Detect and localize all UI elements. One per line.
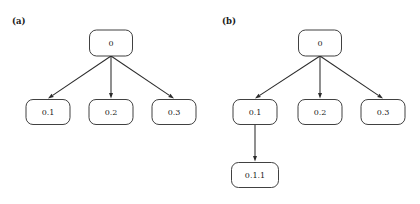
nodes-layer: 00.10.20.300.10.20.30.1.1 — [26, 30, 405, 188]
tree-node-b-c1[interactable]: 0.1 — [233, 100, 277, 125]
tree-node-b-g1[interactable]: 0.1.1 — [232, 163, 279, 188]
edge-b-root-to-b-c2 — [318, 56, 322, 99]
edge-a-root-to-a-c1 — [48, 56, 111, 99]
tree-node-b-root[interactable]: 0 — [299, 30, 342, 56]
node-label: 0 — [108, 39, 113, 48]
node-label: 0.2 — [105, 108, 118, 117]
node-label: 0.3 — [168, 108, 181, 117]
node-label: 0.1 — [42, 108, 55, 117]
panel-labels-layer: (a)(b) — [12, 16, 236, 26]
edge-b-c1-to-b-g1 — [253, 125, 257, 162]
tree-node-a-c3[interactable]: 0.3 — [152, 100, 196, 125]
node-label: 0.1 — [249, 108, 262, 117]
tree-node-b-c2[interactable]: 0.2 — [298, 100, 342, 125]
tree-node-a-c2[interactable]: 0.2 — [89, 100, 133, 125]
node-label: 0.3 — [377, 108, 390, 117]
panel-label-a: (a) — [12, 16, 26, 26]
tree-diagram-canvas: (a)(b) 00.10.20.300.10.20.30.1.1 — [0, 0, 420, 204]
tree-node-a-c1[interactable]: 0.1 — [26, 100, 70, 125]
node-label: 0.2 — [314, 108, 327, 117]
node-label: 0 — [317, 39, 322, 48]
edge-b-root-to-b-c1 — [255, 56, 320, 99]
figure-root: (a)(b) 00.10.20.300.10.20.30.1.1 — [0, 0, 420, 204]
edge-a-root-to-a-c2 — [109, 56, 113, 99]
tree-node-b-c3[interactable]: 0.3 — [361, 100, 405, 125]
edge-a-root-to-a-c3 — [111, 56, 174, 99]
panel-label-b: (b) — [222, 16, 236, 26]
node-label: 0.1.1 — [245, 171, 265, 180]
edge-b-root-to-b-c3 — [320, 56, 383, 99]
tree-node-a-root[interactable]: 0 — [90, 30, 133, 56]
